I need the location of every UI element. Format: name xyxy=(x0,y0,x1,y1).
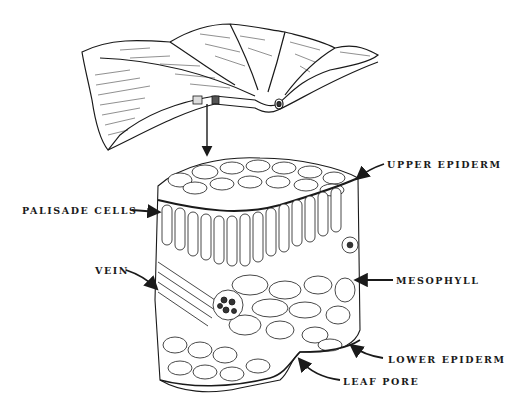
label-upper-epidermis: UPPER EPIDERM xyxy=(387,160,502,170)
leaf-pore-arrow xyxy=(300,360,340,380)
vein-arrow xyxy=(126,270,156,288)
upper-epidermis-arrow xyxy=(358,164,384,178)
label-leaf-pore: LEAF PORE xyxy=(343,377,419,387)
leaf-illustration xyxy=(82,24,378,150)
label-lower-epidermis: LOWER EPIDERM xyxy=(388,355,506,365)
label-vein: VEIN xyxy=(95,266,129,276)
label-palisade-cells: PALISADE CELLS xyxy=(22,206,137,216)
cross-section-block xyxy=(155,158,360,392)
lower-epidermis-arrow xyxy=(352,346,383,358)
label-mesophyll: MESOPHYLL xyxy=(396,276,480,286)
